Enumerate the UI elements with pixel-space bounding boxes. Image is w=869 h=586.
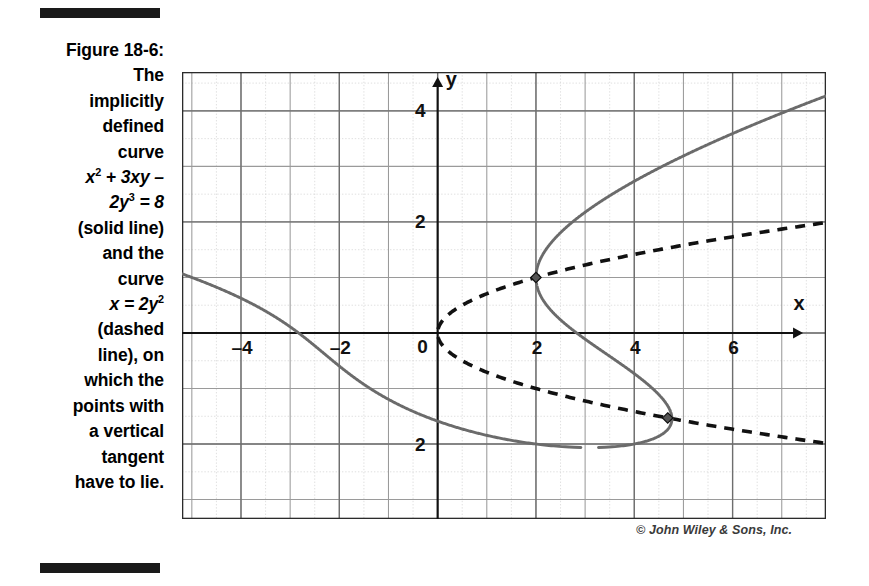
equation-1-line-1: x2 + 3xy –	[0, 165, 164, 190]
figure-label: Figure 18-6:	[0, 38, 164, 63]
figure-caption-column: Figure 18-6: The implicitly defined curv…	[0, 0, 176, 586]
top-rule-bar	[40, 8, 160, 18]
plot-border	[183, 73, 826, 519]
svg-text:0: 0	[417, 336, 428, 357]
svg-text:x: x	[793, 292, 804, 314]
graph-plot-area: –4–20246422 yx	[182, 72, 826, 519]
caption-line-14: have to lie.	[0, 470, 164, 495]
svg-text:4: 4	[415, 100, 426, 121]
equation-2: x = 2y2	[0, 292, 164, 317]
caption-line-10: which the	[0, 368, 164, 393]
svg-text:6: 6	[728, 337, 739, 358]
caption-line-4: curve	[0, 140, 164, 165]
svg-text:2: 2	[415, 211, 426, 232]
caption-line-11: points with	[0, 394, 164, 419]
caption-line-6: and the	[0, 241, 164, 266]
figure-caption-text: Figure 18-6: The implicitly defined curv…	[0, 38, 164, 495]
bottom-rule-bar	[40, 563, 160, 573]
svg-text:y: y	[446, 72, 458, 90]
equation-1-line-2: 2y3 = 8	[0, 190, 164, 215]
svg-text:2: 2	[532, 337, 543, 358]
svg-text:–2: –2	[330, 337, 351, 358]
graph-svg: –4–20246422 yx	[182, 72, 826, 519]
caption-line-7: curve	[0, 267, 164, 292]
vertical-tangent-markers	[531, 272, 673, 423]
caption-line-5: (solid line)	[0, 216, 164, 241]
caption-line-9: line), on	[0, 343, 164, 368]
svg-text:4: 4	[630, 337, 641, 358]
svg-text:–4: –4	[231, 337, 253, 358]
caption-line-2: implicitly	[0, 89, 164, 114]
caption-line-12: a vertical	[0, 419, 164, 444]
caption-line-13: tangent	[0, 445, 164, 470]
curve-solid-branch-left	[536, 78, 826, 447]
svg-text:2: 2	[415, 434, 426, 455]
caption-line-8: (dashed	[0, 317, 164, 342]
copyright-credit: © John Wiley & Sons, Inc.	[636, 523, 792, 537]
caption-line-3: defined	[0, 114, 164, 139]
caption-line-1: The	[0, 63, 164, 88]
grid-minor-lines	[182, 72, 826, 519]
grid-major-lines	[182, 72, 826, 519]
